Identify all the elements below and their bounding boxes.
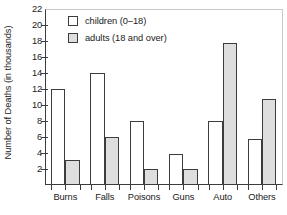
bar-guns-children <box>169 154 183 184</box>
y-axis-tick-mark <box>41 57 48 58</box>
y-axis-tick-mark <box>41 41 48 42</box>
legend-label: children (0–18) <box>85 16 146 26</box>
y-axis-tick-label: 6 <box>22 132 42 141</box>
y-axis-tick-label: 8 <box>22 116 42 125</box>
y-axis-tick-label: 18 <box>22 36 42 45</box>
x-axis-tick-mark <box>80 185 81 190</box>
x-axis-label-guns: Guns <box>164 192 203 203</box>
x-axis-tick-mark <box>105 185 106 190</box>
y-axis-tick-label: 14 <box>22 68 42 77</box>
x-axis-tick-mark <box>144 185 145 190</box>
bar-poisons-children <box>130 121 144 185</box>
x-axis-tick-mark <box>119 185 120 190</box>
x-axis-tick-mark <box>262 185 263 190</box>
x-axis-tick-mark <box>198 185 199 190</box>
x-axis-label-auto: Auto <box>203 192 242 203</box>
y-axis-tick-mark <box>41 121 48 122</box>
x-axis-tick-mark <box>51 185 52 190</box>
y-axis-tick-label: 20 <box>22 20 42 29</box>
y-axis-tick-mark <box>41 137 48 138</box>
x-axis-tick-mark <box>169 185 170 190</box>
x-axis-tick-mark <box>276 185 277 190</box>
x-axis-tick-mark <box>248 185 249 190</box>
x-axis-label-others: Others <box>242 192 281 203</box>
chart-legend: children (0–18)adults (18 and over) <box>68 13 167 47</box>
bar-falls-children <box>90 73 104 185</box>
bar-falls-adults <box>105 137 119 185</box>
bar-others-adults <box>262 99 276 184</box>
bar-burns-adults <box>65 160 79 185</box>
bar-others-children <box>248 139 262 184</box>
y-axis-tick-mark <box>41 153 48 154</box>
x-axis-tick-mark <box>183 185 184 190</box>
x-axis-tick-mark <box>223 185 224 190</box>
legend-label: adults (18 and over) <box>85 33 167 43</box>
y-axis-tick-mark <box>41 105 48 106</box>
bar-guns-adults <box>183 169 197 184</box>
legend-swatch-children <box>68 16 78 26</box>
y-axis-tick-mark <box>41 89 48 90</box>
x-axis-label-poisons: Poisons <box>124 192 163 203</box>
bar-auto-children <box>208 121 222 185</box>
y-axis-tick-mark <box>41 169 48 170</box>
bar-poisons-adults <box>144 169 158 185</box>
x-axis-label-burns: Burns <box>46 192 85 203</box>
bar-auto-adults <box>223 43 237 185</box>
legend-item-adults: adults (18 and over) <box>68 30 167 45</box>
x-axis-tick-mark <box>65 185 66 190</box>
bar-chart: Number of Deaths (in thousands) 24681012… <box>0 0 287 215</box>
x-axis-tick-mark <box>158 185 159 190</box>
legend-swatch-adults <box>68 33 78 43</box>
y-axis-tick-labels: 246810121416182022 <box>22 0 42 215</box>
y-axis-tick-mark <box>41 73 48 74</box>
x-axis-tick-mark <box>130 185 131 190</box>
y-axis-title: Number of Deaths (in thousands) <box>1 0 15 200</box>
y-axis-tick-label: 4 <box>22 148 42 157</box>
legend-item-children: children (0–18) <box>68 13 167 28</box>
y-axis-tick-mark <box>41 25 48 26</box>
x-axis-tick-mark <box>237 185 238 190</box>
y-axis-tick-label: 2 <box>22 164 42 173</box>
y-axis-tick-label: 12 <box>22 84 42 93</box>
y-axis-tick-label: 10 <box>22 100 42 109</box>
y-axis-tick-label: 22 <box>22 5 42 14</box>
bar-burns-children <box>51 89 65 185</box>
x-axis-tick-mark <box>209 185 210 190</box>
y-axis-tick-label: 16 <box>22 52 42 61</box>
x-axis-label-falls: Falls <box>85 192 124 203</box>
x-axis-tick-mark <box>91 185 92 190</box>
